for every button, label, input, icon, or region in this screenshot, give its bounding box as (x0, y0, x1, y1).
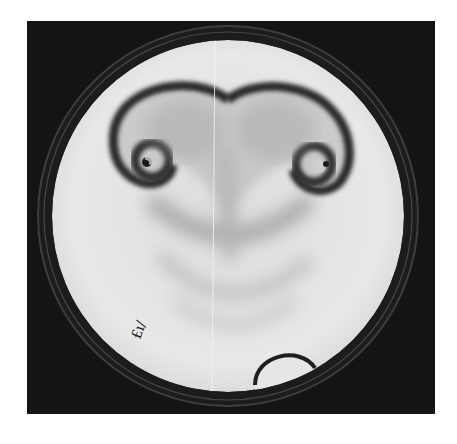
dish-photo: £ı/ (0, 0, 457, 444)
